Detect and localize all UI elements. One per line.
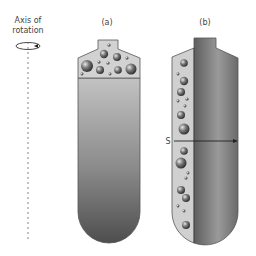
axis-of-rotation: Axis of rotation: [12, 16, 43, 242]
tube-b: (b) S: [165, 18, 238, 245]
tube-a-label: (a): [101, 18, 112, 27]
arrow-label-s: S: [165, 137, 170, 146]
tube-a: (a): [78, 18, 140, 243]
rotation-arrowhead-icon: [34, 44, 38, 48]
tube-b-label: (b): [199, 18, 210, 27]
axis-label-line2: rotation: [12, 26, 43, 35]
axis-label-line1: Axis of: [15, 16, 42, 25]
